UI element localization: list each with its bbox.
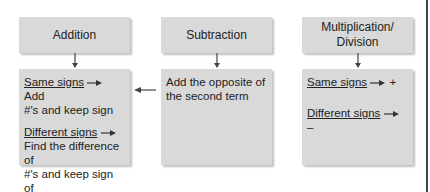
subtraction-header: Subtraction: [186, 28, 247, 43]
down-arrow-icon: [212, 53, 222, 69]
difference-line-1: Find the difference of: [24, 140, 119, 166]
right-arrow-icon: [370, 79, 386, 87]
same-signs-label: Same signs: [24, 76, 84, 88]
multiplication-header-line-1: Multiplication/: [321, 20, 394, 35]
down-arrow-icon: [353, 53, 363, 69]
difference-line-2: #'s and keep sign of: [24, 168, 113, 192]
addition-rule-different: Different signs Find the difference of #…: [24, 125, 125, 192]
addition-body-box: Same signs Add #'s and keep sign Differe…: [19, 69, 130, 165]
subtraction-body-box: Add the opposite of the second term: [161, 69, 272, 165]
addition-header-box: Addition: [19, 17, 130, 53]
addition-header: Addition: [53, 28, 96, 43]
multiplication-rule-same: Same signs +: [307, 75, 408, 89]
right-arrow-icon: [87, 79, 103, 87]
multiplication-rule-different: Different signs –: [307, 106, 408, 134]
different-signs-label: Different signs: [307, 107, 380, 119]
subtraction-line-2: the second term: [166, 90, 248, 102]
subtraction-header-box: Subtraction: [161, 17, 272, 53]
addition-rule-same: Same signs Add #'s and keep sign: [24, 75, 125, 117]
keep-sign-text: #'s and keep sign: [24, 104, 113, 116]
same-signs-label: Same signs: [307, 76, 367, 88]
multiplication-division-header-box: Multiplication/ Division: [302, 17, 413, 53]
minus-sign: –: [307, 121, 313, 133]
right-arrow-icon: [384, 110, 400, 118]
page-edge-divider: [426, 0, 428, 192]
subtraction-line-1: Add the opposite of: [166, 76, 265, 88]
add-label: Add: [24, 90, 44, 102]
down-arrow-icon: [70, 53, 80, 69]
left-arrow-icon: [134, 86, 156, 94]
different-signs-label: Different signs: [24, 126, 97, 138]
multiplication-header-line-2: Division: [336, 35, 378, 50]
multiplication-body-box: Same signs + Different signs –: [302, 69, 413, 165]
plus-sign: +: [390, 76, 397, 88]
right-arrow-icon: [101, 129, 117, 137]
